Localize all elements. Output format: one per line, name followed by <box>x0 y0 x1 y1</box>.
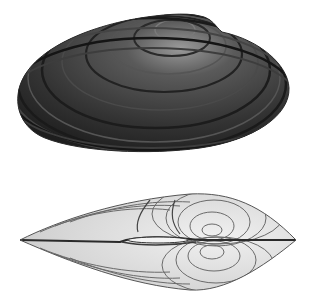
shell-dorsal-view <box>20 184 296 293</box>
shell-illustration: Engraved illustration of a freshwater mu… <box>0 0 312 307</box>
shell-lateral-view <box>8 12 296 152</box>
